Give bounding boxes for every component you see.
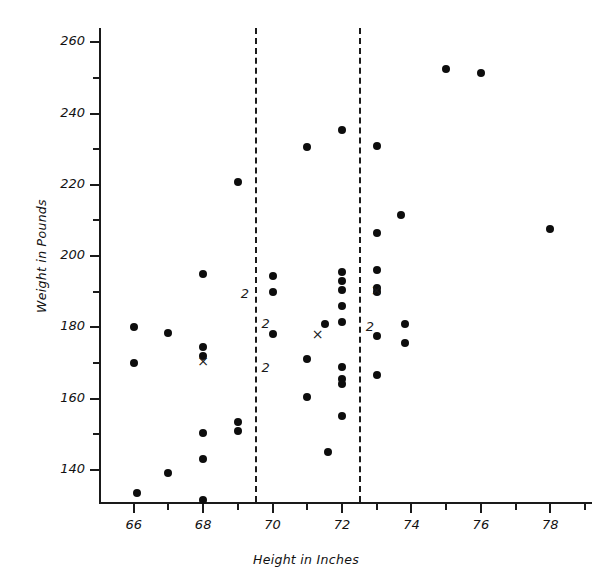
data-point	[199, 429, 207, 437]
y-tick-label: 220	[33, 176, 85, 191]
data-point	[401, 339, 409, 347]
x-tick-label: 78	[530, 517, 570, 532]
data-point	[164, 469, 172, 477]
data-point	[373, 371, 381, 379]
y-major-tick	[90, 41, 101, 43]
data-point	[234, 418, 242, 426]
data-point	[401, 320, 409, 328]
data-point	[397, 211, 405, 219]
x-axis-title: Height in Inches	[0, 552, 612, 567]
x-axis-line	[99, 502, 592, 504]
mean-marker-icon: ×	[370, 283, 384, 297]
data-point	[338, 302, 346, 310]
data-point	[269, 330, 277, 338]
data-point	[234, 427, 242, 435]
y-minor-tick	[93, 291, 101, 293]
x-minor-tick	[237, 502, 239, 510]
data-point	[442, 65, 450, 73]
data-point	[303, 355, 311, 363]
y-major-tick	[90, 255, 101, 257]
x-minor-tick	[306, 502, 308, 510]
mean-marker-icon: ×	[311, 327, 325, 341]
data-point	[130, 323, 138, 331]
data-point	[164, 329, 172, 337]
data-point	[338, 412, 346, 420]
x-tick-label: 70	[253, 517, 293, 532]
x-major-tick	[341, 502, 343, 513]
y-tick-label: 140	[33, 461, 85, 476]
y-minor-tick	[93, 219, 101, 221]
y-major-tick	[90, 469, 101, 471]
y-tick-label: 240	[33, 105, 85, 120]
data-point	[269, 288, 277, 296]
data-point	[338, 126, 346, 134]
x-minor-tick	[167, 502, 169, 510]
mean-marker-icon: ×	[196, 354, 210, 368]
data-point	[338, 277, 346, 285]
data-point	[199, 343, 207, 351]
x-minor-tick	[445, 502, 447, 510]
y-major-tick	[90, 398, 101, 400]
data-point	[477, 69, 485, 77]
y-tick-label: 200	[33, 247, 85, 262]
y-minor-tick	[93, 77, 101, 79]
y-tick-label: 260	[33, 33, 85, 48]
data-point	[324, 448, 332, 456]
x-major-tick	[272, 502, 274, 513]
y-major-tick	[90, 184, 101, 186]
x-tick-label: 74	[391, 517, 431, 532]
y-axis-line	[99, 28, 101, 502]
x-major-tick	[133, 502, 135, 513]
data-point	[234, 178, 242, 186]
x-minor-tick	[515, 502, 517, 510]
y-minor-tick	[93, 362, 101, 364]
data-point	[199, 270, 207, 278]
data-point	[338, 363, 346, 371]
data-point	[338, 268, 346, 276]
x-major-tick	[480, 502, 482, 513]
data-point	[130, 359, 138, 367]
x-minor-tick	[584, 502, 586, 510]
y-tick-label: 180	[33, 318, 85, 333]
lower-divider	[255, 28, 257, 502]
x-major-tick	[410, 502, 412, 513]
data-point	[133, 489, 141, 497]
data-point	[373, 229, 381, 237]
overlap-count-label: 2	[260, 361, 272, 374]
overlap-count-label: 2	[364, 320, 376, 333]
x-minor-tick	[376, 502, 378, 510]
x-major-tick	[549, 502, 551, 513]
scatter-plot-figure: Weight in Pounds Height in Inches 140160…	[0, 0, 612, 585]
upper-divider	[359, 28, 361, 502]
data-point	[338, 380, 346, 388]
data-point	[338, 318, 346, 326]
x-tick-label: 68	[183, 517, 223, 532]
x-tick-label: 66	[114, 517, 154, 532]
y-minor-tick	[93, 148, 101, 150]
data-point	[546, 225, 554, 233]
y-tick-label: 160	[33, 390, 85, 405]
y-minor-tick	[93, 433, 101, 435]
y-major-tick	[90, 326, 101, 328]
overlap-count-label: 2	[260, 317, 272, 330]
x-tick-label: 76	[461, 517, 501, 532]
overlap-count-label: 2	[239, 287, 251, 300]
data-point	[199, 455, 207, 463]
data-point	[373, 142, 381, 150]
data-point	[373, 266, 381, 274]
y-major-tick	[90, 113, 101, 115]
data-point	[303, 143, 311, 151]
data-point	[303, 393, 311, 401]
data-point	[338, 286, 346, 294]
x-tick-label: 72	[322, 517, 362, 532]
data-point	[269, 272, 277, 280]
